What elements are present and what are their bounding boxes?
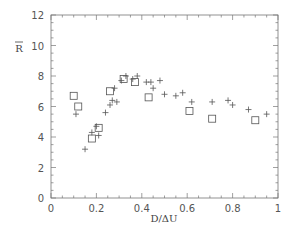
square-marker — [252, 117, 259, 124]
square-marker — [186, 108, 193, 115]
y-axis-label-text: R — [15, 43, 23, 54]
y-tick-label: 2 — [38, 163, 44, 174]
x-tick-label: 0.4 — [134, 203, 150, 214]
scatter-chart: 00.20.40.60.81 024681012 D/ΔU R — [0, 0, 290, 239]
plus-marker — [73, 111, 79, 117]
plus-marker — [123, 73, 129, 79]
plus-marker — [82, 146, 88, 152]
data-markers — [70, 73, 269, 152]
square-marker — [88, 135, 95, 142]
plus-marker — [157, 78, 163, 84]
plus-marker — [102, 110, 108, 116]
square-marker — [209, 115, 216, 122]
square-marker — [145, 94, 152, 101]
y-tick-label: 12 — [31, 10, 44, 21]
square-marker — [107, 88, 114, 95]
y-tick-label: 10 — [31, 41, 44, 52]
y-axis-label: R — [15, 42, 23, 54]
x-tick-label: 1 — [275, 203, 281, 214]
x-axis-label: D/ΔU — [150, 213, 177, 224]
plus-marker — [134, 73, 140, 79]
axis-ticks — [51, 15, 278, 198]
square-marker — [75, 103, 82, 110]
plus-marker — [209, 99, 215, 105]
plus-marker — [245, 107, 251, 113]
plus-marker — [264, 111, 270, 117]
plus-marker — [89, 129, 95, 135]
plus-marker — [148, 79, 154, 85]
y-tick-label: 0 — [38, 193, 44, 204]
plus-marker — [130, 76, 136, 82]
plus-marker — [112, 85, 118, 91]
plus-marker — [230, 102, 236, 108]
x-tick-label: 0.8 — [225, 203, 241, 214]
plus-marker — [180, 90, 186, 96]
plus-marker — [114, 99, 120, 105]
x-tick-label: 0.6 — [179, 203, 195, 214]
y-tick-label: 8 — [38, 71, 44, 82]
plus-marker — [173, 93, 179, 99]
plus-marker — [150, 85, 156, 91]
plus-marker — [225, 97, 231, 103]
x-tick-label: 0.2 — [88, 203, 104, 214]
square-marker — [70, 92, 77, 99]
x-tick-label: 0 — [48, 203, 54, 214]
y-tick-label: 4 — [38, 132, 44, 143]
plus-marker — [189, 99, 195, 105]
y-tick-labels: 024681012 — [31, 10, 44, 204]
y-tick-label: 6 — [38, 102, 44, 113]
plus-marker — [96, 132, 102, 138]
plot-frame — [51, 15, 278, 198]
plus-marker — [162, 91, 168, 97]
